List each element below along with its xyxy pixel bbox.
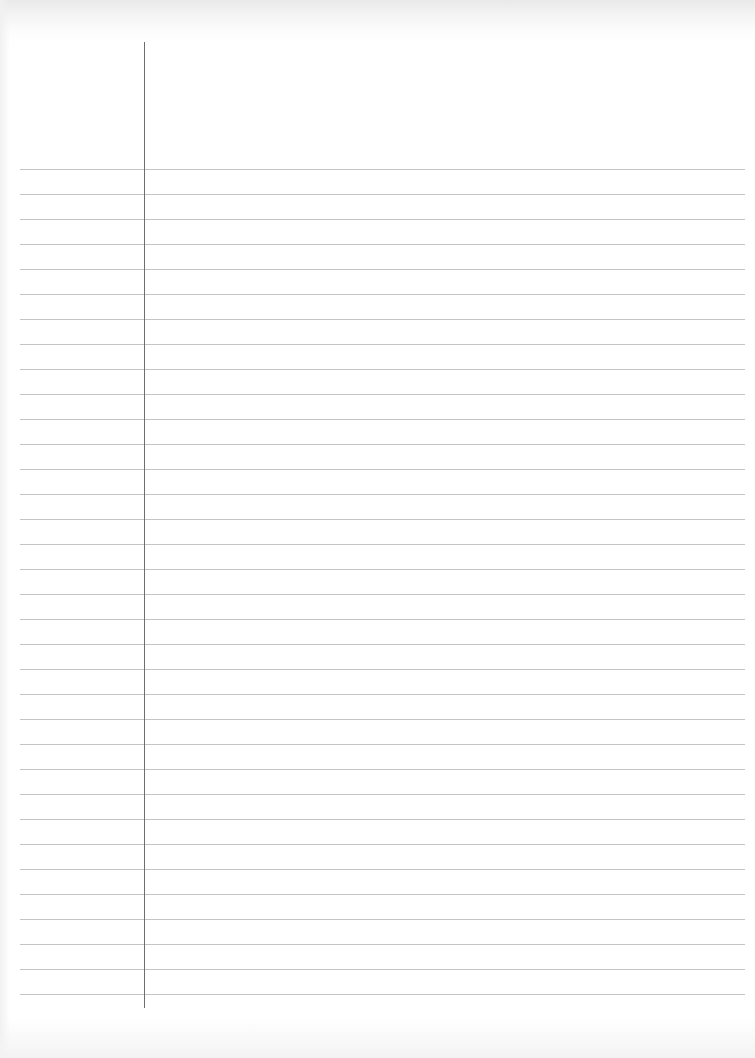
ruled-line (20, 369, 745, 370)
ruled-line (20, 469, 745, 470)
ruled-line (20, 419, 745, 420)
ruled-line (20, 669, 745, 670)
scan-edge-shadow-left (0, 0, 10, 1058)
ruled-line (20, 569, 745, 570)
ruled-line (20, 494, 745, 495)
ruled-line (20, 794, 745, 795)
ruled-line (20, 519, 745, 520)
ruled-line (20, 694, 745, 695)
ruled-line (20, 194, 745, 195)
ruled-line (20, 769, 745, 770)
ruled-line (20, 744, 745, 745)
ruled-line (20, 819, 745, 820)
ruled-line (20, 169, 745, 170)
ruled-line (20, 319, 745, 320)
ruled-line (20, 219, 745, 220)
ruled-line (20, 969, 745, 970)
margin-line (144, 42, 145, 1008)
ruled-line (20, 919, 745, 920)
ruled-line (20, 894, 745, 895)
ruled-line (20, 394, 745, 395)
ruled-line (20, 994, 745, 995)
lined-paper-sheet (0, 0, 755, 1058)
scan-edge-shadow-bottom (0, 1018, 755, 1058)
ruled-line (20, 594, 745, 595)
ruled-line (20, 444, 745, 445)
ruled-line (20, 719, 745, 720)
ruled-line (20, 269, 745, 270)
ruled-line (20, 644, 745, 645)
ruled-line (20, 294, 745, 295)
ruled-line (20, 244, 745, 245)
ruled-line (20, 944, 745, 945)
ruled-line (20, 544, 745, 545)
ruled-line (20, 619, 745, 620)
ruled-line (20, 844, 745, 845)
ruled-line (20, 869, 745, 870)
ruled-line (20, 344, 745, 345)
